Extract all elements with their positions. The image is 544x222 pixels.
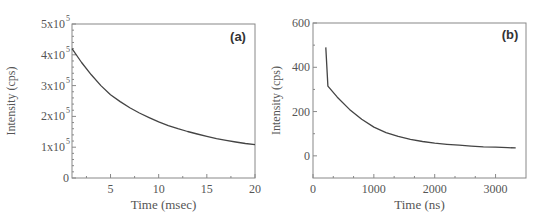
y-tick-exponent: 5 <box>66 14 70 23</box>
y-tick-label: 0 <box>304 149 310 163</box>
plot-frame <box>72 24 255 178</box>
y-tick-label: 600 <box>292 16 310 30</box>
x-tick-label: 20 <box>249 182 261 196</box>
y-tick-label: 3x10 <box>41 79 65 93</box>
x-tick-label: 0 <box>310 182 316 196</box>
y-axis-label: Intensity (cps) <box>269 66 283 135</box>
decay-curve <box>72 49 255 145</box>
y-tick-label: 200 <box>292 105 310 119</box>
x-tick-label: 2000 <box>423 182 447 196</box>
decay-curve <box>326 47 516 147</box>
x-tick-label: 10 <box>153 182 165 196</box>
x-tick-label: 3000 <box>484 182 508 196</box>
y-axis-label: Intensity (cps) <box>4 67 18 136</box>
y-tick-exponent: 5 <box>66 45 70 54</box>
x-tick-label: 1000 <box>362 182 386 196</box>
y-tick-exponent: 5 <box>66 106 70 115</box>
y-tick-exponent: 5 <box>66 137 70 146</box>
plot-frame <box>313 23 526 178</box>
x-axis-label: Time (msec) <box>131 197 197 212</box>
y-tick-label: 5x10 <box>41 17 65 31</box>
y-tick-exponent: 5 <box>66 76 70 85</box>
y-tick-label: 2x10 <box>41 109 65 123</box>
y-tick-label: 400 <box>292 60 310 74</box>
panel-label: (a) <box>230 29 246 44</box>
x-tick-label: 15 <box>201 182 213 196</box>
figure: 510152001x1052x1053x1054x1055x105Time (m… <box>0 0 544 222</box>
chart-panel-a: 510152001x1052x1053x1054x1055x105Time (m… <box>4 14 261 212</box>
y-tick-label: 1x10 <box>41 140 65 154</box>
x-axis-label: Time (ns) <box>394 197 444 212</box>
y-tick-label: 0 <box>63 171 69 185</box>
y-tick-label: 4x10 <box>41 48 65 62</box>
chart-panel-b: 01000200030000200400600Time (ns)Intensit… <box>269 16 526 212</box>
panel-label: (b) <box>502 27 519 42</box>
x-tick-label: 5 <box>108 182 114 196</box>
